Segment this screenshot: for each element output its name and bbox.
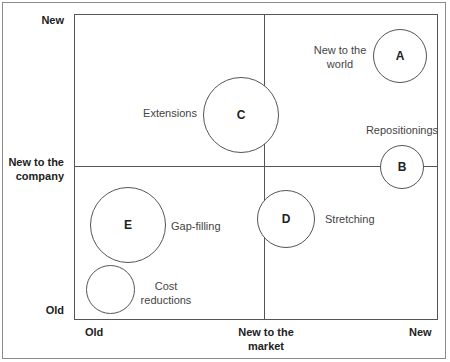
circle-b: B	[380, 145, 424, 189]
x-axis-middle-label-line2: market	[224, 339, 308, 353]
y-axis-bottom-label: Old	[28, 303, 64, 317]
label-new-to-the-world: New to the world	[310, 43, 370, 71]
circle-d-letter: D	[282, 212, 291, 226]
circle-c: C	[203, 77, 279, 153]
y-axis-middle-label-line1: New to the	[0, 155, 64, 169]
label-stretching: Stretching	[325, 212, 381, 226]
label-cost-line1: Cost	[136, 279, 196, 293]
circle-b-letter: B	[398, 160, 407, 174]
label-repositionings: Repositionings	[365, 123, 439, 137]
label-a-line1: New to the	[310, 43, 370, 57]
label-gap-filling: Gap-filling	[171, 219, 231, 233]
vertical-divider	[264, 14, 265, 320]
circle-e-letter: E	[124, 218, 132, 232]
y-axis-middle-label: New to the company	[0, 155, 64, 183]
circle-e: E	[90, 187, 166, 263]
x-axis-middle-label-line1: New to the	[224, 325, 308, 339]
label-cost-reductions: Cost reductions	[136, 279, 196, 307]
x-axis-middle-label: New to the market	[224, 325, 308, 353]
label-a-line2: world	[310, 57, 370, 71]
circle-c-letter: C	[237, 108, 246, 122]
y-axis-top-label: New	[28, 13, 64, 27]
label-extensions: Extensions	[142, 106, 198, 120]
circle-a: A	[373, 29, 427, 83]
x-axis-right-label: New	[409, 325, 432, 339]
y-axis-middle-label-line2: company	[0, 169, 64, 183]
x-axis-left-label: Old	[85, 325, 103, 339]
circle-cost-reductions	[86, 265, 135, 314]
circle-d: D	[257, 190, 315, 248]
circle-a-letter: A	[396, 49, 405, 63]
diagram-canvas: New New to the company Old Old New to th…	[0, 0, 450, 362]
label-cost-line2: reductions	[136, 293, 196, 307]
